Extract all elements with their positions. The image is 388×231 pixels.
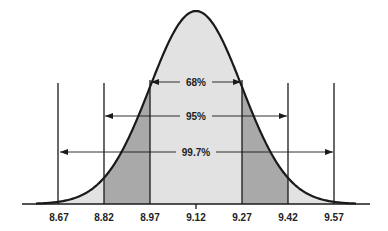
tick-label: 9.27 — [232, 212, 252, 223]
label-99-7-percent: 99.7% — [182, 147, 210, 158]
region-light — [288, 0, 356, 204]
tick-label: 8.67 — [49, 212, 69, 223]
tick-label: 9.42 — [278, 212, 298, 223]
tick-label: 9.12 — [186, 212, 206, 223]
normal-distribution-chart: 68% 95% 99.7% 8.67 8.82 8.97 9.12 9.27 9… — [0, 0, 388, 231]
tick-label: 9.57 — [324, 212, 344, 223]
label-95-percent: 95% — [186, 111, 206, 122]
label-68-percent: 68% — [186, 77, 206, 88]
chart-canvas: 68% 95% 99.7% 8.67 8.82 8.97 9.12 9.27 9… — [0, 0, 388, 231]
region-light — [36, 0, 104, 204]
annotation-99-7: 99.7% — [60, 147, 333, 158]
shaded-regions — [36, 0, 356, 204]
region-light — [150, 0, 242, 204]
tick-label: 8.97 — [140, 212, 160, 223]
tick-label: 8.82 — [94, 212, 114, 223]
annotation-95: 95% — [105, 111, 287, 122]
x-tick-labels: 8.67 8.82 8.97 9.12 9.27 9.42 9.57 — [49, 212, 344, 223]
